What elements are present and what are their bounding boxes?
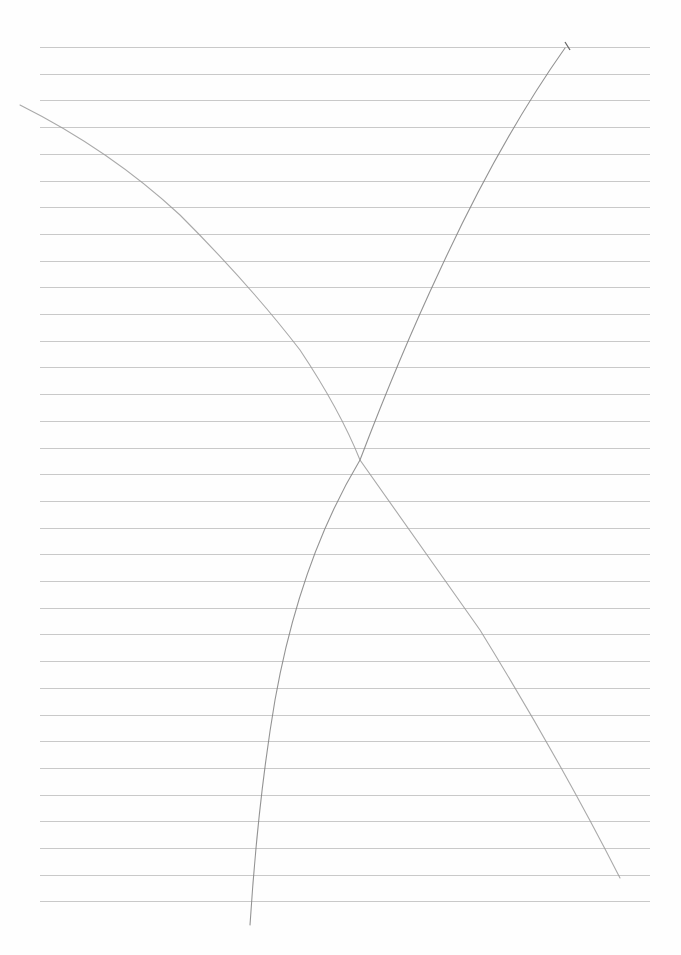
pencil-curve-ascending	[250, 48, 565, 925]
pencil-strokes	[0, 0, 681, 955]
pencil-tick	[565, 42, 570, 50]
pencil-curve-descending	[20, 105, 620, 878]
